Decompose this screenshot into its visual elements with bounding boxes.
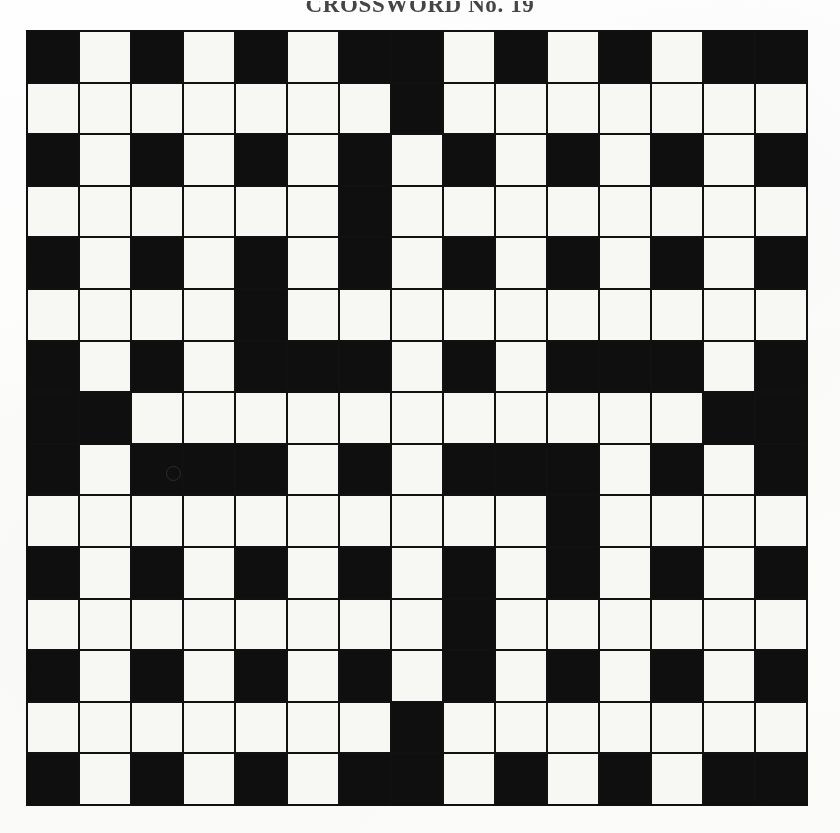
grid-open-cell[interactable] — [392, 393, 442, 443]
grid-open-cell[interactable] — [496, 187, 546, 237]
grid-open-cell[interactable] — [288, 600, 338, 650]
grid-open-cell[interactable] — [496, 290, 546, 340]
grid-open-cell[interactable] — [704, 703, 754, 753]
grid-open-cell[interactable] — [600, 84, 650, 134]
grid-open-cell[interactable] — [496, 135, 546, 185]
grid-open-cell[interactable] — [444, 290, 494, 340]
grid-open-cell[interactable] — [28, 84, 78, 134]
grid-open-cell[interactable] — [392, 445, 442, 495]
grid-open-cell[interactable] — [288, 290, 338, 340]
grid-open-cell[interactable] — [132, 187, 182, 237]
grid-open-cell[interactable] — [288, 548, 338, 598]
grid-open-cell[interactable] — [80, 238, 130, 288]
grid-open-cell[interactable] — [288, 84, 338, 134]
grid-open-cell[interactable] — [80, 600, 130, 650]
grid-open-cell[interactable] — [496, 651, 546, 701]
grid-open-cell[interactable] — [28, 187, 78, 237]
grid-open-cell[interactable] — [392, 342, 442, 392]
grid-open-cell[interactable] — [392, 548, 442, 598]
grid-open-cell[interactable] — [340, 703, 390, 753]
grid-open-cell[interactable] — [132, 496, 182, 546]
grid-open-cell[interactable] — [548, 754, 598, 804]
grid-open-cell[interactable] — [184, 290, 234, 340]
grid-open-cell[interactable] — [548, 290, 598, 340]
grid-open-cell[interactable] — [496, 342, 546, 392]
grid-open-cell[interactable] — [392, 651, 442, 701]
grid-open-cell[interactable] — [756, 84, 806, 134]
grid-open-cell[interactable] — [704, 651, 754, 701]
grid-open-cell[interactable] — [184, 703, 234, 753]
grid-open-cell[interactable] — [184, 135, 234, 185]
grid-open-cell[interactable] — [184, 32, 234, 82]
grid-open-cell[interactable] — [756, 187, 806, 237]
grid-open-cell[interactable] — [28, 600, 78, 650]
grid-open-cell[interactable] — [704, 548, 754, 598]
grid-open-cell[interactable] — [496, 703, 546, 753]
grid-open-cell[interactable] — [600, 238, 650, 288]
grid-open-cell[interactable] — [340, 393, 390, 443]
grid-open-cell[interactable] — [444, 754, 494, 804]
grid-open-cell[interactable] — [496, 496, 546, 546]
grid-open-cell[interactable] — [288, 445, 338, 495]
grid-open-cell[interactable] — [444, 703, 494, 753]
grid-open-cell[interactable] — [652, 496, 702, 546]
grid-open-cell[interactable] — [444, 496, 494, 546]
crossword-grid[interactable] — [26, 30, 808, 806]
grid-open-cell[interactable] — [392, 135, 442, 185]
grid-open-cell[interactable] — [600, 445, 650, 495]
grid-open-cell[interactable] — [496, 548, 546, 598]
grid-open-cell[interactable] — [704, 496, 754, 546]
grid-open-cell[interactable] — [704, 135, 754, 185]
grid-open-cell[interactable] — [340, 290, 390, 340]
grid-open-cell[interactable] — [236, 703, 286, 753]
grid-open-cell[interactable] — [236, 496, 286, 546]
grid-open-cell[interactable] — [236, 84, 286, 134]
grid-open-cell[interactable] — [652, 187, 702, 237]
grid-open-cell[interactable] — [600, 703, 650, 753]
grid-open-cell[interactable] — [704, 290, 754, 340]
grid-open-cell[interactable] — [236, 393, 286, 443]
grid-open-cell[interactable] — [444, 393, 494, 443]
grid-open-cell[interactable] — [392, 187, 442, 237]
grid-open-cell[interactable] — [496, 393, 546, 443]
grid-open-cell[interactable] — [652, 393, 702, 443]
grid-open-cell[interactable] — [184, 84, 234, 134]
grid-open-cell[interactable] — [756, 496, 806, 546]
grid-open-cell[interactable] — [496, 84, 546, 134]
grid-open-cell[interactable] — [756, 600, 806, 650]
grid-open-cell[interactable] — [704, 84, 754, 134]
grid-open-cell[interactable] — [28, 290, 78, 340]
grid-open-cell[interactable] — [80, 187, 130, 237]
grid-open-cell[interactable] — [236, 600, 286, 650]
grid-open-cell[interactable] — [184, 754, 234, 804]
grid-open-cell[interactable] — [756, 290, 806, 340]
grid-open-cell[interactable] — [652, 600, 702, 650]
grid-open-cell[interactable] — [600, 651, 650, 701]
grid-open-cell[interactable] — [704, 342, 754, 392]
grid-open-cell[interactable] — [80, 342, 130, 392]
grid-open-cell[interactable] — [80, 84, 130, 134]
grid-open-cell[interactable] — [652, 290, 702, 340]
grid-open-cell[interactable] — [132, 600, 182, 650]
grid-open-cell[interactable] — [288, 187, 338, 237]
grid-open-cell[interactable] — [288, 496, 338, 546]
grid-open-cell[interactable] — [288, 238, 338, 288]
grid-open-cell[interactable] — [80, 32, 130, 82]
grid-open-cell[interactable] — [548, 187, 598, 237]
grid-open-cell[interactable] — [600, 600, 650, 650]
grid-open-cell[interactable] — [80, 703, 130, 753]
grid-open-cell[interactable] — [600, 548, 650, 598]
grid-open-cell[interactable] — [132, 290, 182, 340]
grid-open-cell[interactable] — [600, 393, 650, 443]
grid-open-cell[interactable] — [548, 32, 598, 82]
grid-open-cell[interactable] — [28, 703, 78, 753]
grid-open-cell[interactable] — [756, 703, 806, 753]
grid-open-cell[interactable] — [288, 651, 338, 701]
grid-open-cell[interactable] — [652, 754, 702, 804]
grid-open-cell[interactable] — [652, 703, 702, 753]
grid-open-cell[interactable] — [80, 290, 130, 340]
grid-open-cell[interactable] — [392, 496, 442, 546]
grid-open-cell[interactable] — [184, 651, 234, 701]
grid-open-cell[interactable] — [392, 290, 442, 340]
grid-open-cell[interactable] — [444, 32, 494, 82]
